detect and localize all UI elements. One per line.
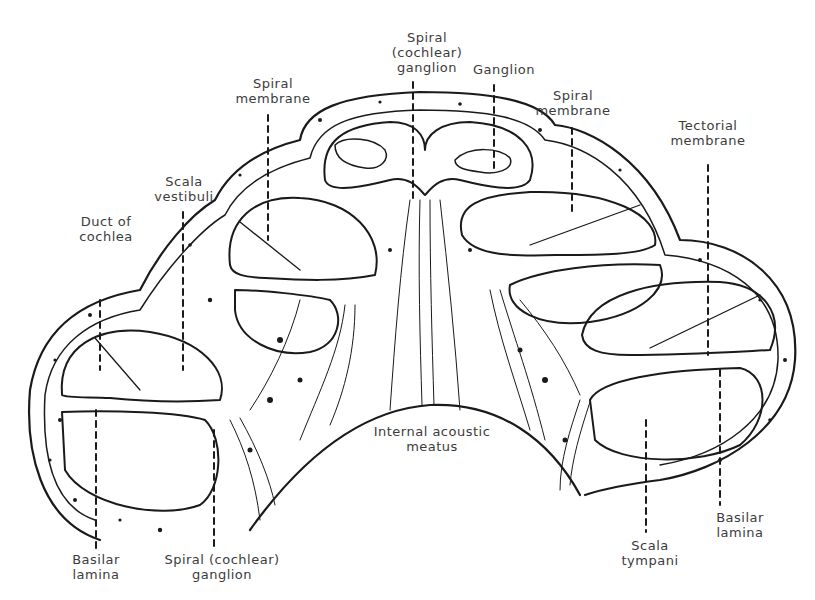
label-spiral-cochlear-ganglion-top: Spiral (cochlear) ganglion xyxy=(382,30,472,75)
top-chamber-vestibuli xyxy=(324,122,532,195)
left-bottom-scala-vestibuli xyxy=(62,331,222,402)
label-basilar-lamina-left: Basilar lamina xyxy=(60,552,132,582)
leader-lines xyxy=(96,82,720,548)
left-mid-scala-tympani xyxy=(235,290,338,353)
right-mid-reissner-line xyxy=(530,205,640,245)
label-tectorial-membrane: Tectorial membrane xyxy=(658,118,758,148)
label-basilar-lamina-right: Basilar lamina xyxy=(704,510,776,540)
right-mid-scala-tympani xyxy=(510,264,662,323)
right-bottom-reissner-line xyxy=(650,295,760,348)
top-duct-right xyxy=(455,150,511,173)
modiolus-nerve-fibres xyxy=(230,200,590,520)
top-duct-left xyxy=(335,139,386,168)
right-bottom-scala-tympani xyxy=(590,368,763,459)
left-mid-scala-vestibuli xyxy=(229,198,376,280)
label-spiral-membrane-left: Spiral membrane xyxy=(228,76,318,106)
label-spiral-cochlear-ganglion-bottom: Spiral (cochlear) ganglion xyxy=(152,552,292,582)
label-scala-vestibuli: Scala vestibuli xyxy=(146,174,222,204)
label-internal-acoustic-meatus: Internal acoustic meatus xyxy=(362,424,502,454)
bone-speckles xyxy=(48,100,787,532)
label-scala-tympani: Scala tympani xyxy=(612,538,688,568)
right-mid-scala-vestibuli xyxy=(461,192,656,256)
left-bottom-reissner-line xyxy=(95,338,140,390)
label-duct-of-cochlea: Duct of cochlea xyxy=(68,214,144,244)
label-ganglion: Ganglion xyxy=(466,62,542,77)
left-bottom-scala-tympani xyxy=(62,411,218,511)
cochlea-section-illustration xyxy=(0,0,815,600)
label-spiral-membrane-right: Spiral membrane xyxy=(528,88,618,118)
left-mid-reissner-line xyxy=(240,222,300,270)
